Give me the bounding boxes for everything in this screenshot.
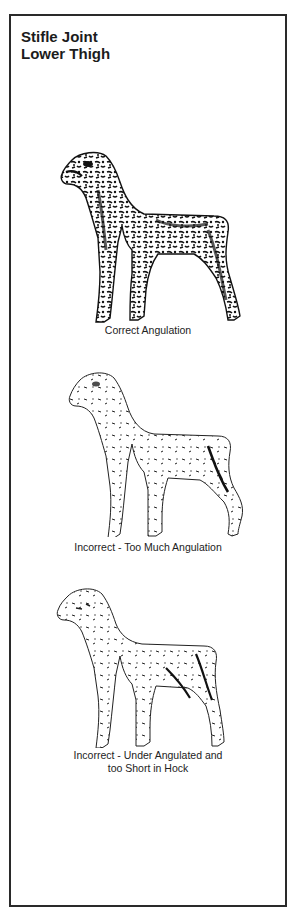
rottweiler-dark-illustration <box>58 150 248 325</box>
page-title: Stifle Joint Lower Thigh <box>21 28 110 62</box>
caption-correct-angulation: Correct Angulation <box>9 324 287 337</box>
rottweiler-light-illustration <box>68 372 253 537</box>
rottweiler-light-illustration <box>56 588 236 748</box>
figure-under-angulated <box>56 588 236 748</box>
title-line-1: Stifle Joint <box>21 28 110 45</box>
caption-line: Incorrect - Too Much Angulation <box>9 541 287 554</box>
figure-correct-angulation <box>58 150 248 325</box>
caption-under-angulated: Incorrect - Under Angulated and too Shor… <box>9 749 287 775</box>
figure-too-much-angulation <box>68 372 253 537</box>
caption-too-much-angulation: Incorrect - Too Much Angulation <box>9 541 287 554</box>
title-line-2: Lower Thigh <box>21 45 110 62</box>
caption-line: Incorrect - Under Angulated and <box>9 749 287 762</box>
caption-line: too Short in Hock <box>9 762 287 775</box>
caption-line: Correct Angulation <box>9 324 287 337</box>
